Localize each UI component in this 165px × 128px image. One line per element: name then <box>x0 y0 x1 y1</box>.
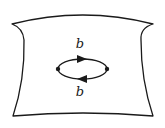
edge-top-label: b <box>76 36 84 51</box>
vertex-right <box>105 67 109 71</box>
arrow-right-icon <box>77 55 87 63</box>
surface-sheet <box>12 15 153 116</box>
arrow-left-icon <box>77 75 87 83</box>
loop-curve <box>58 59 107 79</box>
edge-bottom-label: b <box>76 84 84 99</box>
surface-loop-diagram: b b <box>0 0 165 128</box>
vertex-left <box>56 67 60 71</box>
